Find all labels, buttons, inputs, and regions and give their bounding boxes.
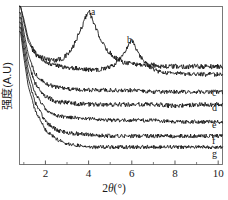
xrd-plot-svg: a b c d e f g 246810 2θ(°) 强度(A.U)	[0, 0, 228, 200]
curve-label-d: d	[212, 102, 217, 113]
peak-label-b: b	[127, 35, 132, 45]
x-tick-label: 10	[213, 167, 225, 179]
x-tick-label: 2	[43, 167, 49, 179]
x-tick-label: 6	[129, 167, 135, 179]
curve-label-c: c	[212, 87, 217, 98]
x-tick-label: 8	[172, 167, 178, 179]
curve-label-g: g	[212, 148, 217, 159]
x-tick-labels: 246810	[43, 167, 225, 179]
x-tick-label: 4	[86, 167, 92, 179]
x-axis-title: 2θ(°)	[102, 182, 126, 195]
curve-label-e: e	[212, 119, 217, 130]
y-axis-title: 强度(A.U)	[0, 62, 13, 110]
xrd-figure: a b c d e f g 246810 2θ(°) 强度(A.U)	[0, 0, 228, 200]
